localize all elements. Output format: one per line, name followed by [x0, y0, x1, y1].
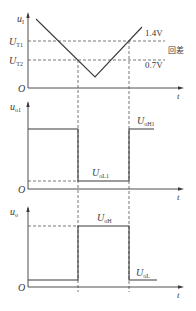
output1-square-wave: [28, 129, 154, 181]
input-t-label: t: [177, 91, 180, 101]
input-y-label: uI: [17, 13, 24, 25]
schmitt-trigger-waveform-diagram: uI UT1 UT2 1.4V 0.7V 回差 O t uo1 UoH1 UoL…: [0, 0, 196, 311]
threshold-ut1-label: UT1: [9, 36, 23, 48]
input-y-arrow-icon: [26, 12, 29, 18]
input-origin-label: O: [18, 83, 25, 94]
output-t-arrow-icon: [178, 285, 184, 288]
input-panel: uI UT1 UT2 1.4V 0.7V 回差 O t: [9, 12, 184, 101]
output1-t-arrow-icon: [178, 187, 184, 190]
output-low-label: UoL: [136, 267, 150, 279]
input-triangle-wave: [36, 19, 142, 77]
output1-y-arrow-icon: [26, 101, 29, 107]
output1-t-label: t: [177, 192, 180, 202]
threshold-ut2-value: 0.7V: [145, 60, 163, 70]
output1-y-label: uo1: [10, 101, 21, 113]
output1-panel: uo1 UoH1 UoL1 O t: [10, 101, 184, 202]
output-y-label: uo: [10, 206, 18, 218]
threshold-ut2-label: UT2: [9, 55, 23, 67]
threshold-ut1-value: 1.4V: [145, 28, 163, 38]
output1-high-label: UoH1: [137, 115, 155, 127]
output-t-label: t: [177, 290, 180, 300]
output-high-label: UoH: [97, 212, 112, 224]
input-t-arrow-icon: [178, 86, 184, 89]
output-y-arrow-icon: [26, 206, 29, 212]
output-origin-label: O: [18, 282, 25, 293]
output1-origin-label: O: [18, 184, 25, 195]
output-panel: uo UoH UoL O t: [10, 206, 184, 300]
output1-low-label: UoL1: [92, 167, 109, 179]
hysteresis-label: 回差: [168, 45, 184, 55]
